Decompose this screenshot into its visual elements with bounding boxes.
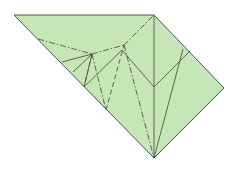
origami-diagram	[0, 0, 241, 171]
paper-outline	[14, 15, 224, 158]
